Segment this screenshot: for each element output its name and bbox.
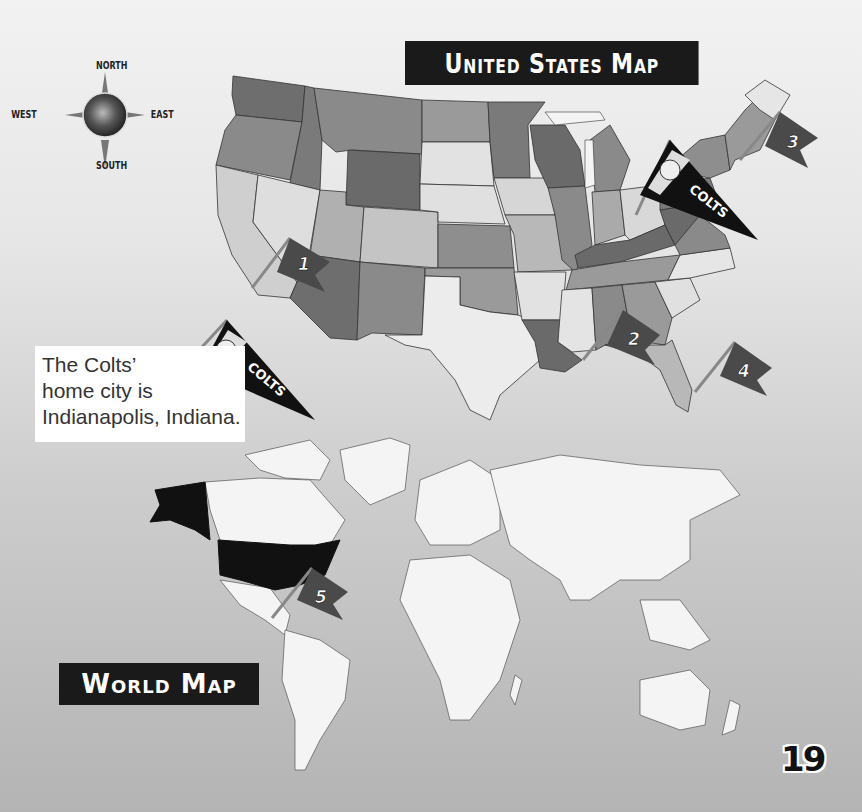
helmet-icon (660, 160, 680, 180)
flag-5-number: 5 (315, 587, 327, 607)
flag-5[interactable]: 5 (272, 568, 348, 620)
flag-2[interactable]: 2 (583, 310, 660, 365)
caption-line-2: home city is (42, 378, 245, 404)
flag-3-number: 3 (787, 132, 799, 152)
flag-4[interactable]: 4 (695, 342, 772, 396)
flag-3[interactable]: 3 (740, 112, 818, 168)
caption-box: The Colts’ home city is Indianapolis, In… (35, 346, 245, 442)
caption-line-1: The Colts’ (42, 352, 245, 378)
colts-pennant-us-map[interactable]: COLTS (636, 140, 758, 240)
page-number: 19 (781, 739, 824, 779)
flag-2-number: 2 (628, 329, 640, 349)
flag-1-number: 1 (298, 254, 310, 274)
flag-4-number: 4 (737, 361, 750, 381)
flag-1[interactable]: 1 (252, 238, 330, 292)
caption-line-3: Indianapolis, Indiana. (42, 404, 245, 430)
